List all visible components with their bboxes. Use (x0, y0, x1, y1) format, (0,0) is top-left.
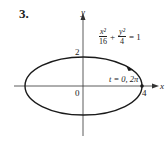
y-axis-label: y (81, 8, 85, 17)
fraction-y: y² 4 (118, 28, 126, 46)
x-axis-label: x (160, 82, 164, 91)
y-tick-2: 2 (75, 48, 80, 57)
direction-arrow-icon (126, 66, 133, 72)
origin-label: 0 (75, 89, 80, 98)
ellipse-plot (0, 0, 167, 151)
fraction-x: x² 16 (99, 28, 107, 46)
equation-rhs: = 1 (129, 32, 141, 42)
parameter-label: t = 0, 2π (109, 75, 138, 84)
ellipse-equation: x² 16 + y² 4 = 1 (99, 28, 141, 46)
plus-sign: + (110, 32, 115, 42)
x-axis-arrow-icon (152, 84, 159, 89)
x-tick-4: 4 (142, 89, 147, 98)
